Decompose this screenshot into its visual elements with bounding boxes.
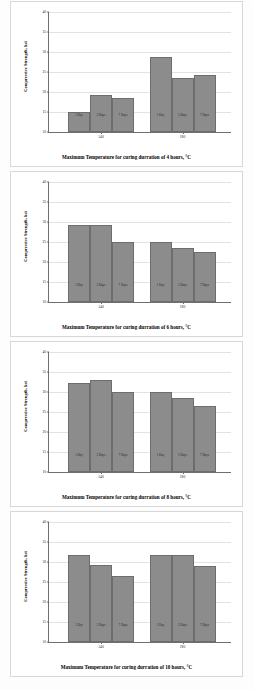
bar: 3 Days	[90, 225, 112, 302]
x-tick-label: 180	[180, 135, 185, 139]
y-tick-label: 30	[42, 390, 46, 394]
bar: 3 Days	[172, 555, 194, 642]
x-tick-label: 140	[98, 645, 103, 649]
plot-area: 101520253035401 Day3 Days7 Days1401 Day3…	[48, 522, 231, 643]
bar: 7 Days	[194, 75, 216, 132]
bar: 3 Days	[90, 95, 112, 132]
y-tick-label: 40	[42, 10, 46, 14]
y-axis-title: Compressive Strength, ksi	[23, 522, 28, 632]
y-tick-label: 40	[42, 520, 46, 524]
y-tick-label: 30	[42, 50, 46, 54]
bar-series-label: 3 Days	[173, 283, 193, 287]
y-tick-label: 20	[42, 260, 46, 264]
y-tick-label: 15	[42, 620, 46, 624]
x-axis-title: Maximum Temperature for curing durration…	[11, 664, 242, 670]
bar-group: 1 Day3 Days7 Days140	[68, 182, 134, 302]
bar: 1 Day	[68, 555, 90, 642]
y-tick-label: 15	[42, 450, 46, 454]
bar: 3 Days	[172, 78, 194, 132]
chart-panel: Compressive Strength, ksi101520253035401…	[10, 341, 243, 507]
x-tick-mark	[183, 472, 184, 474]
x-tick-label: 140	[98, 475, 103, 479]
bar: 7 Days	[194, 566, 216, 642]
chart-panel: Compressive Strength, ksi101520253035401…	[10, 171, 243, 337]
bar-series-label: 1 Day	[69, 283, 89, 287]
bar: 3 Days	[172, 248, 194, 302]
y-tick-label: 15	[42, 110, 46, 114]
bar-series-label: 3 Days	[91, 623, 111, 627]
bar: 1 Day	[68, 112, 90, 132]
bar: 1 Day	[150, 555, 172, 642]
bar-series-label: 3 Days	[173, 113, 193, 117]
bar-series-label: 3 Days	[91, 283, 111, 287]
bar-groups: 1 Day3 Days7 Days1401 Day3 Days7 Days180	[49, 182, 231, 302]
y-tick-label: 10	[42, 470, 46, 474]
plot-wrapper: Compressive Strength, ksi101520253035401…	[11, 342, 242, 506]
plot-wrapper: Compressive Strength, ksi101520253035401…	[11, 2, 242, 166]
bar: 7 Days	[194, 252, 216, 302]
bar: 7 Days	[112, 576, 134, 642]
bar-groups: 1 Day3 Days7 Days1401 Day3 Days7 Days180	[49, 12, 231, 132]
x-tick-mark	[183, 302, 184, 304]
x-tick-label: 180	[180, 645, 185, 649]
y-tick-label: 35	[42, 200, 46, 204]
bar-group: 1 Day3 Days7 Days180	[150, 522, 216, 642]
y-tick-label: 10	[42, 300, 46, 304]
y-tick-label: 40	[42, 180, 46, 184]
y-tick-label: 35	[42, 30, 46, 34]
chart-panel: Compressive Strength, ksi101520253035401…	[10, 1, 243, 167]
bar-series-label: 7 Days	[113, 283, 133, 287]
y-tick-label: 15	[42, 280, 46, 284]
plot-area: 101520253035401 Day3 Days7 Days1401 Day3…	[48, 352, 231, 473]
y-tick-label: 40	[42, 350, 46, 354]
bar: 7 Days	[194, 406, 216, 472]
x-tick-label: 140	[98, 135, 103, 139]
bar-series-label: 7 Days	[195, 453, 215, 457]
bar-group: 1 Day3 Days7 Days180	[150, 12, 216, 132]
bar-series-label: 1 Day	[69, 623, 89, 627]
bar-series-label: 3 Days	[91, 453, 111, 457]
bar-group: 1 Day3 Days7 Days180	[150, 352, 216, 472]
bar-group: 1 Day3 Days7 Days140	[68, 352, 134, 472]
bar: 1 Day	[68, 383, 90, 472]
bar: 3 Days	[90, 565, 112, 642]
bar-series-label: 7 Days	[113, 453, 133, 457]
y-tick-label: 25	[42, 240, 46, 244]
y-tick-label: 10	[42, 640, 46, 644]
y-tick-label: 25	[42, 580, 46, 584]
y-tick-label: 35	[42, 370, 46, 374]
bar-series-label: 3 Days	[173, 453, 193, 457]
y-tick-label: 20	[42, 90, 46, 94]
plot-wrapper: Compressive Strength, ksi101520253035401…	[11, 172, 242, 336]
y-tick-label: 35	[42, 540, 46, 544]
x-tick-mark	[101, 302, 102, 304]
x-tick-label: 180	[180, 305, 185, 309]
figure-sheet: Compressive Strength, ksi101520253035401…	[0, 1, 253, 690]
bar: 3 Days	[172, 398, 194, 472]
y-tick-label: 25	[42, 70, 46, 74]
bar-group: 1 Day3 Days7 Days140	[68, 522, 134, 642]
x-tick-mark	[183, 642, 184, 644]
x-axis-title: Maximum Temperature for curing durration…	[11, 494, 242, 500]
bar: 1 Day	[150, 392, 172, 472]
bar: 7 Days	[112, 392, 134, 472]
bar-series-label: 1 Day	[151, 623, 171, 627]
y-tick-label: 20	[42, 600, 46, 604]
bar: 7 Days	[112, 98, 134, 132]
y-tick-label: 30	[42, 560, 46, 564]
y-tick-label: 30	[42, 220, 46, 224]
bar-series-label: 3 Days	[173, 623, 193, 627]
bar: 1 Day	[68, 225, 90, 302]
bar-groups: 1 Day3 Days7 Days1401 Day3 Days7 Days180	[49, 522, 231, 642]
y-axis-title: Compressive Strength, ksi	[23, 352, 28, 462]
plot-wrapper: Compressive Strength, ksi101520253035401…	[11, 512, 242, 676]
y-tick-label: 10	[42, 130, 46, 134]
x-axis-title: Maximum Temperature for curing durration…	[11, 324, 242, 330]
bar-series-label: 7 Days	[195, 113, 215, 117]
bar-series-label: 3 Days	[91, 113, 111, 117]
bar: 3 Days	[90, 380, 112, 472]
bar-series-label: 1 Day	[151, 453, 171, 457]
bar-groups: 1 Day3 Days7 Days1401 Day3 Days7 Days180	[49, 352, 231, 472]
plot-area: 101520253035401 Day3 Days7 Days1401 Day3…	[48, 12, 231, 133]
bar-series-label: 7 Days	[195, 283, 215, 287]
